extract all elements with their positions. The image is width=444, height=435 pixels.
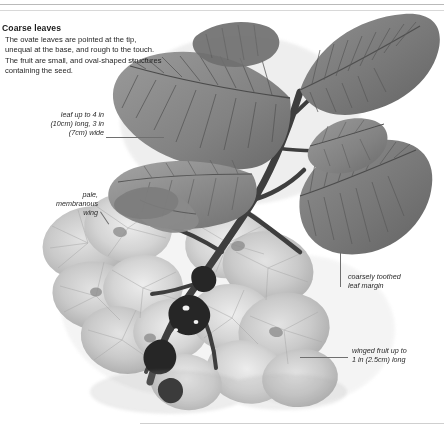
leader-line-winged-fruit: [300, 357, 348, 358]
annotation-leaf-margin: coarsely toothed leaf margin: [348, 272, 440, 290]
caption-title: Coarse leaves: [2, 23, 162, 34]
caption-body: The ovate leaves are pointed at the tip,…: [2, 35, 162, 77]
field-guide-page: Coarse leaves The ovate leaves are point…: [0, 0, 444, 435]
annotation-winged-fruit: winged fruit up to 1 in (2.5cm) long: [352, 346, 442, 364]
leader-line-leaf-size: [106, 137, 164, 138]
annotation-membranous-wing: pale, membranous wing: [20, 190, 98, 218]
caption-block: Coarse leaves The ovate leaves are point…: [2, 23, 162, 77]
annotation-leaf-size: leaf up to 4 in (10cm) long, 3 in (7cm) …: [8, 110, 104, 138]
leaf-top-right: [300, 14, 440, 115]
leader-line-leaf-margin: [340, 252, 341, 287]
fruit-shadow: [90, 370, 347, 414]
